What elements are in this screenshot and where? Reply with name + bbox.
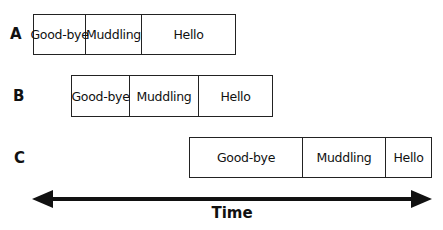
double-arrow-icon [0, 0, 443, 230]
time-axis-label: Time [200, 204, 264, 222]
